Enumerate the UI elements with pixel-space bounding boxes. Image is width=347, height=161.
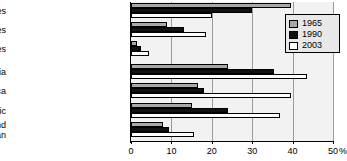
bar	[131, 32, 206, 37]
legend-item-1990[interactable]: 1990	[289, 29, 336, 40]
category-label: Latin America andthe Caribbean	[0, 120, 6, 140]
bar	[131, 13, 212, 18]
category-label-line: Middle income countries	[0, 25, 6, 35]
category-label: Low income countries	[0, 6, 6, 16]
category-label-line: Latin America and	[0, 120, 6, 130]
category-label-line: Low income countries	[0, 6, 6, 16]
legend-label-1965: 1965	[302, 19, 322, 28]
bar-chart: 01020304050 % Low income countriesMiddle…	[0, 0, 347, 161]
x-tick-40	[293, 141, 294, 144]
x-tick-50	[333, 141, 334, 144]
y-axis-line	[130, 2, 131, 143]
category-label-line: the Caribbean	[0, 130, 6, 140]
bar	[131, 132, 194, 137]
bar-group	[131, 122, 333, 137]
x-tick-20	[212, 141, 213, 144]
bar	[131, 113, 280, 118]
legend-swatch-1990	[289, 31, 298, 39]
legend: 1965 1990 2003	[285, 14, 340, 53]
bar-group	[131, 64, 333, 79]
legend-item-1965[interactable]: 1965	[289, 18, 336, 29]
category-label: Sub-Saharan Africa	[0, 86, 6, 96]
category-label-line: South Asia	[0, 67, 6, 77]
category-label-line: High income countries	[0, 44, 6, 54]
x-tick-30	[252, 141, 253, 144]
category-label: South Asia	[0, 67, 6, 77]
x-tick-label-10: 10	[166, 146, 176, 156]
category-label-line: East Asia and Pacific	[0, 106, 6, 116]
x-tick-label-30: 30	[247, 146, 257, 156]
category-label: East Asia and Pacific	[0, 106, 6, 116]
bar	[131, 51, 149, 56]
x-tick-10	[171, 141, 172, 144]
x-tick-label-50: 50	[328, 146, 338, 156]
bar-group	[131, 83, 333, 98]
legend-label-2003: 2003	[302, 41, 322, 50]
x-axis-line	[130, 141, 334, 142]
category-label: High income countries	[0, 44, 6, 54]
bar	[131, 93, 291, 98]
legend-swatch-1965	[289, 20, 298, 28]
legend-item-2003[interactable]: 2003	[289, 40, 336, 51]
category-label-line: Sub-Saharan Africa	[0, 86, 6, 96]
bar	[131, 74, 307, 79]
bar-group	[131, 103, 333, 118]
x-tick-0	[131, 141, 132, 144]
x-tick-label-20: 20	[207, 146, 217, 156]
x-tick-label-0: 0	[128, 146, 133, 156]
x-tick-label-40: 40	[288, 146, 298, 156]
category-label: Middle income countries	[0, 25, 6, 35]
legend-swatch-2003	[289, 42, 298, 50]
legend-label-1990: 1990	[302, 30, 322, 39]
x-axis-unit-label: %	[339, 146, 347, 156]
